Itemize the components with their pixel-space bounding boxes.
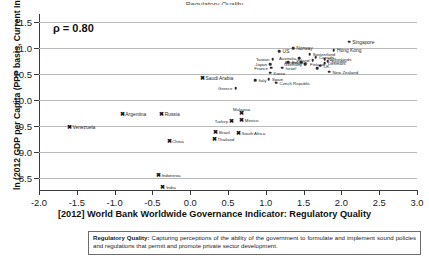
data-point-label: Italy bbox=[258, 78, 266, 83]
data-point-marker bbox=[316, 67, 319, 70]
data-point-marker bbox=[212, 136, 217, 141]
data-point-label: Malaysia bbox=[233, 106, 250, 111]
data-point-label: China bbox=[172, 138, 183, 143]
x-tick-mark bbox=[228, 190, 229, 195]
data-point-label: Venezuela bbox=[72, 124, 95, 129]
data-point-marker bbox=[167, 138, 172, 143]
caption-term: Regulatory Quality bbox=[93, 234, 147, 241]
x-tick-mark bbox=[115, 190, 116, 195]
x-tick-label: -1.0 bbox=[107, 197, 123, 208]
y-tick-label: 10.5 bbox=[13, 68, 32, 79]
data-point-marker bbox=[271, 58, 274, 61]
data-point-label: Czech Republic bbox=[280, 80, 310, 85]
data-point-marker bbox=[270, 66, 273, 69]
data-point-label: Singapore bbox=[352, 39, 374, 44]
data-point-marker bbox=[308, 53, 311, 56]
scatter-plot-figure: Regulatory Quality ln (2012 GDP per Capi… bbox=[0, 0, 429, 258]
x-axis-title: [2012] World Bank Worldwide Governance I… bbox=[0, 209, 429, 219]
data-point-marker bbox=[236, 131, 241, 136]
data-point-marker bbox=[287, 61, 290, 64]
y-tick-mark bbox=[34, 100, 39, 101]
y-axis-line bbox=[39, 14, 40, 191]
data-point-marker bbox=[213, 130, 218, 135]
data-point-marker bbox=[275, 81, 278, 84]
data-point-label: Turkey bbox=[215, 118, 228, 123]
data-point-marker bbox=[292, 47, 295, 50]
x-tick-mark bbox=[304, 190, 305, 195]
data-point-label: Saudi Arabia bbox=[205, 76, 233, 81]
data-point-label: Hong Kong bbox=[337, 48, 361, 53]
x-tick-label: 1.0 bbox=[259, 197, 272, 208]
data-point-label: Israel bbox=[286, 65, 297, 70]
data-point-marker bbox=[269, 72, 272, 75]
data-point-label: Norway bbox=[296, 46, 313, 51]
data-point-label: Brazil bbox=[219, 130, 230, 135]
data-point-label: Mexico bbox=[245, 117, 259, 122]
plot-area: 8.59.09.510.010.511.011.5 -2.0-1.5-1.0-0… bbox=[39, 14, 417, 191]
data-point-marker bbox=[268, 78, 271, 81]
data-point-marker bbox=[200, 76, 205, 81]
data-point-label: Greece bbox=[218, 86, 232, 91]
x-tick-mark bbox=[190, 190, 191, 195]
y-tick-label: 11.5 bbox=[14, 16, 32, 27]
x-tick-label: 2.0 bbox=[335, 197, 348, 208]
x-tick-mark bbox=[152, 190, 153, 195]
data-point-label: Argentina bbox=[125, 112, 146, 117]
data-point-label: US bbox=[283, 48, 290, 53]
data-point-marker bbox=[234, 87, 237, 90]
y-tick-mark bbox=[34, 126, 39, 127]
x-tick-label: -0.5 bbox=[144, 197, 160, 208]
y-tick-label: 8.5 bbox=[19, 172, 32, 183]
x-tick-mark bbox=[39, 190, 40, 195]
data-point-marker bbox=[254, 79, 257, 82]
data-point-marker bbox=[328, 70, 331, 73]
data-point-label: France bbox=[254, 65, 268, 70]
data-point-marker bbox=[239, 117, 244, 122]
data-point-label: Finland bbox=[310, 61, 324, 66]
data-point-marker bbox=[348, 40, 351, 43]
x-tick-mark bbox=[77, 190, 78, 195]
gridline bbox=[39, 100, 417, 101]
x-tick-mark bbox=[341, 190, 342, 195]
data-point-marker bbox=[67, 124, 72, 129]
y-tick-mark bbox=[34, 152, 39, 153]
data-point-marker bbox=[156, 172, 161, 177]
x-tick-mark bbox=[379, 190, 380, 195]
data-point-marker bbox=[159, 112, 164, 117]
x-tick-label: 2.5 bbox=[373, 197, 386, 208]
gridline bbox=[39, 178, 417, 179]
clipped-chart-title: Regulatory Quality bbox=[0, 0, 429, 5]
y-tick-mark bbox=[34, 178, 39, 179]
x-tick-mark bbox=[417, 190, 418, 195]
data-point-label: New Zealand bbox=[332, 69, 358, 74]
y-tick-label: 11.0 bbox=[14, 42, 32, 53]
correlation-annotation: ρ = 0.80 bbox=[53, 22, 94, 34]
x-tick-mark bbox=[266, 190, 267, 195]
x-tick-label: 3.0 bbox=[410, 197, 423, 208]
y-tick-mark bbox=[34, 22, 39, 23]
gridline bbox=[39, 126, 417, 127]
y-tick-label: 9.0 bbox=[19, 146, 32, 157]
x-tick-label: 0.5 bbox=[221, 197, 234, 208]
gridline bbox=[39, 152, 417, 153]
data-point-marker bbox=[160, 184, 165, 189]
caption-box: Regulatory Quality: Capturing perception… bbox=[88, 231, 421, 255]
data-point-label: South Africa bbox=[242, 131, 265, 136]
x-tick-label: -1.5 bbox=[69, 197, 85, 208]
data-point-marker bbox=[239, 111, 244, 116]
data-point-label: Russia bbox=[165, 112, 180, 117]
y-tick-label: 10.0 bbox=[13, 94, 32, 105]
data-point-label: Korea bbox=[274, 70, 286, 75]
y-tick-mark bbox=[34, 48, 39, 49]
x-tick-label: 1.5 bbox=[297, 197, 310, 208]
data-point-marker bbox=[314, 56, 317, 59]
data-point-marker bbox=[229, 118, 234, 123]
data-point-marker bbox=[278, 50, 281, 53]
x-tick-label: 0.0 bbox=[184, 197, 197, 208]
data-point-label: Thailand bbox=[218, 136, 235, 141]
data-point-marker bbox=[120, 112, 125, 117]
y-tick-mark bbox=[34, 74, 39, 75]
data-point-marker bbox=[281, 66, 284, 69]
y-tick-label: 9.5 bbox=[19, 120, 32, 131]
data-point-label: India bbox=[166, 184, 175, 189]
